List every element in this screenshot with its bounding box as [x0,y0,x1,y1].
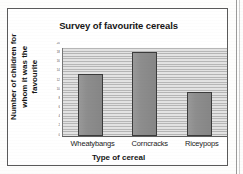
x-axis-line [62,136,228,137]
x-axis-tick-labels: WheatybangsCorncracksRiceypops [62,139,227,148]
y-tick-label: 20 [57,42,60,45]
y-tick-label: 10 [57,88,60,91]
y-tick-label: 0 [58,134,60,137]
x-tick-label: Wheatybangs [70,139,114,148]
page-edge-line [236,0,237,174]
y-tick-label: 4 [58,115,60,118]
y-tick-label: 14 [57,69,60,72]
y-tick-label: 2 [58,124,60,127]
y-axis-tick-labels: 20181614121086420 [49,42,60,137]
x-tick-label: Corncracks [132,139,168,148]
y-tick-label: 12 [57,79,60,82]
bar [132,52,157,136]
y-tick-label: 6 [58,106,60,109]
y-tick-label: 16 [57,60,60,63]
bar-series [63,48,227,136]
y-tick-label: 8 [58,97,60,100]
x-tick-label: Riceypops [185,139,219,148]
plot-area [62,48,227,136]
scanned-page: Survey of favourite cereals Number of ch… [0,0,243,174]
y-axis-title: Number of children for whom it was the f… [9,29,41,125]
x-axis-title: Type of cereal [8,153,229,162]
bar [187,92,212,136]
bar [78,74,103,136]
y-tick-label: 18 [57,51,60,54]
chart-title: Survey of favourite cereals [8,20,229,31]
page-edge-line-secondary [239,0,240,174]
chart-frame: Survey of favourite cereals Number of ch… [7,8,228,166]
